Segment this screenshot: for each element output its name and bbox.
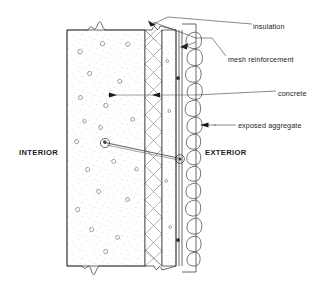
label-insulation: insulation	[253, 22, 285, 31]
leader-concrete	[196, 91, 276, 95]
insulation-layer	[145, 30, 162, 266]
mesh-marker	[176, 77, 179, 80]
exposed-aggregate-face	[185, 32, 202, 266]
concrete-inner-wythe	[67, 30, 145, 266]
drawing-canvas: insulation mesh reinforcement concrete e…	[0, 0, 332, 293]
leader-insulation	[153, 17, 252, 24]
concrete-outer-wythe	[162, 30, 176, 266]
break-line-top-outer	[145, 26, 176, 30]
label-exposed-aggregate: exposed aggregate	[238, 121, 302, 130]
wall-section-drawing: insulation mesh reinforcement concrete e…	[0, 0, 332, 293]
leader-arrow-insulation	[148, 21, 156, 27]
label-mesh-reinforcement: mesh reinforcement	[228, 55, 294, 64]
mesh-marker	[176, 239, 179, 242]
break-line-bottom	[67, 266, 176, 275]
label-interior: INTERIOR	[19, 148, 58, 157]
label-concrete: concrete	[278, 89, 307, 98]
break-line-top-inner	[67, 22, 145, 30]
wall-assembly	[67, 22, 203, 275]
mesh-reinforcement-line	[176, 30, 182, 266]
leader-arrow-mesh	[180, 43, 188, 50]
leader-arrow-aggregate	[200, 122, 209, 127]
label-exterior: EXTERIOR	[205, 148, 247, 157]
